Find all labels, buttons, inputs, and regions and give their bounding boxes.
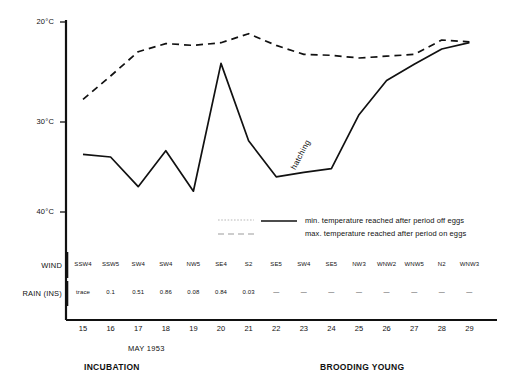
wind-cell: SW4 — [132, 261, 145, 267]
x-tick-label: 15 — [79, 324, 87, 333]
wind-cell: WNW3 — [460, 261, 479, 267]
wind-cell: N2 — [438, 261, 446, 267]
wind-cell: SE4 — [215, 261, 227, 267]
x-tick-label: 23 — [300, 324, 308, 333]
y-tick-label-30: 30°C — [18, 117, 54, 126]
wind-cell: SW4 — [159, 261, 172, 267]
rain-cell: 0.84 — [215, 289, 227, 295]
wind-cell: WNW5 — [404, 261, 423, 267]
wind-cell: SSW5 — [102, 261, 119, 267]
wind-cell: NW3 — [352, 261, 366, 267]
x-tick-label: 27 — [410, 324, 418, 333]
y-tick-label-40: 40°C — [18, 207, 54, 216]
wind-row-label: WIND — [0, 261, 62, 270]
rain-cell: — — [439, 289, 445, 295]
x-axis-month-label: MAY 1953 — [128, 344, 165, 353]
y-tick-label-20: 20°C — [18, 17, 54, 26]
rain-cell: — — [273, 289, 279, 295]
x-tick-label: 21 — [244, 324, 252, 333]
x-tick-label: 26 — [382, 324, 390, 333]
phase-label-brooding: BROODING YOUNG — [320, 362, 404, 372]
rain-cell: — — [466, 289, 472, 295]
rain-cell: 0.1 — [106, 289, 115, 295]
rain-cell: trace — [76, 289, 90, 295]
x-tick-label: 22 — [272, 324, 280, 333]
rain-cell: — — [328, 289, 334, 295]
legend-label-max: max. temperature reached after period on… — [305, 229, 466, 238]
chart-container: 20°C 30°C 40°C hatching min. temperature… — [0, 0, 517, 385]
rain-cell: 0.86 — [160, 289, 172, 295]
wind-cell: SE5 — [326, 261, 338, 267]
x-tick-label: 29 — [465, 324, 473, 333]
rain-cell: 0.08 — [187, 289, 199, 295]
x-tick-label: 19 — [189, 324, 197, 333]
rain-cell: — — [356, 289, 362, 295]
rain-cell: 0.03 — [243, 289, 255, 295]
rain-cell: — — [384, 289, 390, 295]
x-tick-label: 18 — [162, 324, 170, 333]
phase-label-incubation: INCUBATION — [84, 362, 140, 372]
x-tick-label: 25 — [355, 324, 363, 333]
wind-cell: SSW4 — [74, 261, 91, 267]
x-tick-label: 24 — [327, 324, 335, 333]
wind-cell: S2 — [245, 261, 253, 267]
wind-cell: NW5 — [187, 261, 201, 267]
rain-row-label: RAIN (INS) — [0, 289, 62, 298]
wind-cell: WNW2 — [377, 261, 396, 267]
rain-cell: — — [411, 289, 417, 295]
rain-cell: — — [301, 289, 307, 295]
x-tick-label: 28 — [438, 324, 446, 333]
wind-cell: SE5 — [270, 261, 282, 267]
series-min-temperature — [83, 43, 469, 192]
x-tick-label: 20 — [217, 324, 225, 333]
x-tick-label: 17 — [134, 324, 142, 333]
legend-label-min: min. temperature reached after period of… — [305, 216, 464, 225]
rain-cell: 0.51 — [132, 289, 144, 295]
wind-cell: SW4 — [297, 261, 310, 267]
x-tick-label: 16 — [106, 324, 114, 333]
